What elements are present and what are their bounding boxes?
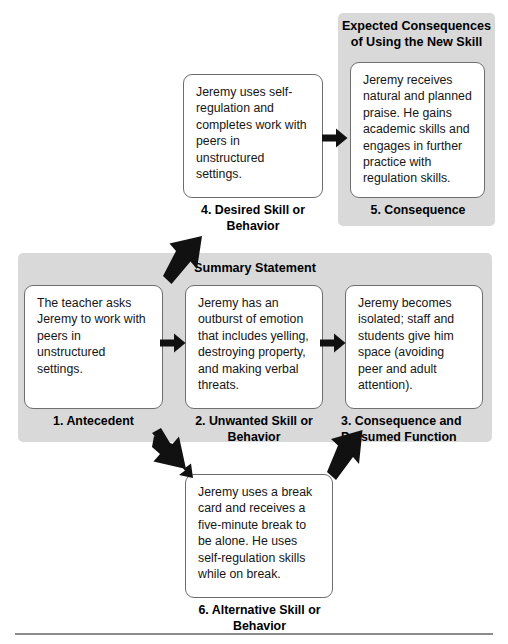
caption-antecedent: 1. Antecedent xyxy=(24,414,163,430)
box-desired-skill-text: Jeremy uses self-regulation and complete… xyxy=(196,84,311,182)
footer-divider xyxy=(15,633,493,635)
box-antecedent-text: The teacher asks Jeremy to work with pee… xyxy=(37,295,151,377)
box-alternative-skill[interactable]: Jeremy uses a break card and receives a … xyxy=(185,474,333,598)
box-consequence-positive-text: Jeremy receives natural and planned prai… xyxy=(363,72,473,187)
caption-consequence-positive: 5. Consequence xyxy=(348,203,488,219)
caption-consequence-function: 3. Consequence and Presumed Function xyxy=(341,414,489,445)
box-antecedent[interactable]: The teacher asks Jeremy to work with pee… xyxy=(24,285,163,409)
caption-desired-skill: 4. Desired Skill or Behavior xyxy=(178,203,328,234)
box-unwanted-behavior-text: Jeremy has an outburst of emotion that i… xyxy=(198,295,311,393)
box-alternative-skill-text: Jeremy uses a break card and receives a … xyxy=(198,484,321,582)
arrow-diagonal-up-icon-antecedent-to-desired xyxy=(163,232,205,284)
diagram-canvas: Expected Consequencesof Using the New Sk… xyxy=(0,0,508,644)
box-consequence-function[interactable]: Jeremy becomes isolated; staff and stude… xyxy=(345,285,483,409)
box-unwanted-behavior[interactable]: Jeremy has an outburst of emotion that i… xyxy=(185,285,323,409)
arrow-diagonal-up-icon-alternative-to-consequence xyxy=(327,424,363,480)
caption-alternative-skill: 6. Alternative Skill or Behavior xyxy=(178,603,341,634)
arrow-right-icon-antecedent-to-unwanted xyxy=(160,333,186,353)
box-consequence-positive[interactable]: Jeremy receives natural and planned prai… xyxy=(350,62,485,198)
box-consequence-function-text: Jeremy becomes isolated; staff and stude… xyxy=(358,295,471,393)
arrow-right-icon-unwanted-to-consequence xyxy=(320,333,346,353)
caption-unwanted-behavior: 2. Unwanted Skill or Behavior xyxy=(180,414,328,445)
heading-summary-statement: Summary Statement xyxy=(185,260,325,276)
arrow-diagonal-down-icon-unwanted-to-alternative xyxy=(152,428,194,480)
arrow-right-icon-desired-to-consequence xyxy=(322,128,348,148)
heading-expected-consequences: Expected Consequencesof Using the New Sk… xyxy=(336,18,497,50)
box-desired-skill[interactable]: Jeremy uses self-regulation and complete… xyxy=(183,74,323,198)
